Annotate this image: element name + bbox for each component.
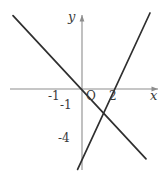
- y-tick-label-neg1: -1: [60, 99, 72, 111]
- x-tick-label-neg1: -1: [48, 90, 60, 102]
- y-axis-label: y: [68, 10, 75, 23]
- y-axis-arrow-icon: [80, 15, 85, 22]
- origin-label: O: [86, 90, 96, 102]
- descending-line: [13, 16, 146, 159]
- graph-canvas: [0, 0, 166, 173]
- y-tick-label-neg4: -4: [58, 132, 70, 144]
- x-tick-label-2: 2: [109, 90, 117, 102]
- coordinate-plane-figure: -1 2 O -1 -4 x y: [0, 0, 166, 173]
- x-axis-label: x: [150, 89, 157, 102]
